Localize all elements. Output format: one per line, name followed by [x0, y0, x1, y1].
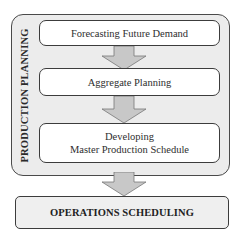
step-label-line-2: Master Production Schedule — [70, 143, 189, 156]
operations-scheduling-label: OPERATIONS SCHEDULING — [50, 207, 194, 218]
production-planning-label: PRODUCTION PLANNING — [19, 28, 30, 162]
operations-scheduling-box: OPERATIONS SCHEDULING — [15, 196, 229, 229]
production-planning-label-container: PRODUCTION PLANNING — [13, 14, 35, 176]
down-arrow-icon — [102, 46, 146, 70]
step-developing-master-production-schedule: Developing Master Production Schedule — [39, 123, 220, 163]
down-arrow-icon — [102, 96, 146, 120]
step-aggregate-planning: Aggregate Planning — [39, 68, 220, 96]
step-label-line-1: Developing — [105, 130, 154, 143]
down-arrow-icon — [102, 172, 146, 196]
step-label: Aggregate Planning — [88, 76, 172, 89]
step-label: Forecasting Future Demand — [71, 27, 188, 40]
step-forecasting-future-demand: Forecasting Future Demand — [39, 20, 220, 46]
